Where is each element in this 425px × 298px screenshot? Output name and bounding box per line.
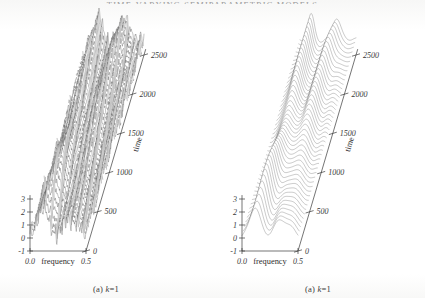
svg-text:-1: -1 [230,247,237,256]
panel-b-caption: (a) k=1 [212,284,424,294]
svg-text:0: 0 [305,247,309,256]
svg-text:0.0: 0.0 [25,257,35,266]
svg-text:0: 0 [21,234,25,243]
svg-text:-1: -1 [18,247,25,256]
scanned-page: TIME-VARYING SEMIPARAMETRIC MODELS 0.00.… [0,0,425,298]
panel-a-caption-text: (a) [93,284,103,294]
svg-text:0: 0 [233,234,237,243]
svg-text:1: 1 [21,221,25,230]
svg-text:500: 500 [105,207,117,216]
svg-text:2000: 2000 [351,90,367,99]
figure-panel-a: 0.00.5frequency-101230500100015002000250… [0,8,212,298]
svg-text:3: 3 [232,195,237,204]
figure-panel-b: 0.00.5frequency-101230500100015002000250… [212,8,424,298]
svg-text:1000: 1000 [116,168,132,177]
svg-text:frequency: frequency [253,257,287,266]
panel-a-caption: (a) k=1 [0,284,212,294]
svg-text:0.5: 0.5 [81,257,91,266]
svg-text:500: 500 [317,207,329,216]
svg-text:time: time [131,136,144,153]
svg-text:2: 2 [233,208,237,217]
svg-text:frequency: frequency [41,257,75,266]
svg-text:0: 0 [93,247,97,256]
ridgeline-svg-b: 0.00.5frequency-101230500100015002000250… [212,8,424,270]
svg-text:2: 2 [21,208,25,217]
running-head: TIME-VARYING SEMIPARAMETRIC MODELS [0,0,425,4]
figure-row: 0.00.5frequency-101230500100015002000250… [0,8,425,298]
ridgeline-plot-b: 0.00.5frequency-101230500100015002000250… [212,8,424,270]
svg-text:time: time [343,136,356,153]
svg-text:2500: 2500 [151,51,167,60]
svg-text:2500: 2500 [363,51,379,60]
ridgeline-svg-a: 0.00.5frequency-101230500100015002000250… [0,8,212,270]
svg-text:0.0: 0.0 [237,257,247,266]
panel-b-caption-text: (a) [305,284,315,294]
svg-text:1: 1 [233,221,237,230]
svg-text:1000: 1000 [328,168,344,177]
panel-a-caption-value: =1 [109,284,119,294]
ridgeline-plot-a: 0.00.5frequency-101230500100015002000250… [0,8,212,270]
panel-b-caption-value: =1 [321,284,331,294]
svg-text:3: 3 [20,195,25,204]
svg-text:2000: 2000 [139,90,155,99]
svg-text:0.5: 0.5 [293,257,303,266]
running-head-text: TIME-VARYING SEMIPARAMETRIC MODELS [107,1,318,4]
